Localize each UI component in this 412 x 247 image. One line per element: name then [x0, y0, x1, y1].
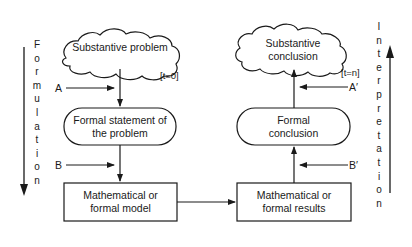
formal-conclusion-label: Formal conclusion [237, 114, 350, 140]
formal-statement-line1: Formal statement of [64, 114, 176, 127]
interpretation-label: I n t e r p r e t a t i o n [374, 20, 384, 210]
formulation-label: F o r m u l a t i o n [32, 38, 42, 188]
time-tag-end: [t=n] [341, 67, 360, 78]
formulation-arrowhead [20, 184, 28, 196]
math-model-label: Mathematical or formal model [64, 189, 177, 215]
input-a-prime-label: A′ [349, 81, 358, 94]
math-model-line1: Mathematical or [64, 189, 177, 202]
formal-conclusion-line1: Formal [237, 114, 350, 127]
formal-statement-label: Formal statement of the problem [64, 114, 176, 140]
time-tag-start: [t=0] [160, 70, 179, 81]
input-b-label: B [55, 159, 62, 172]
math-results-line1: Mathematical or [237, 189, 351, 202]
input-a-label: A [55, 82, 62, 95]
math-model-line2: formal model [64, 202, 177, 215]
interpretation-arrowhead [386, 45, 394, 58]
substantive-problem-label: Substantive problem [64, 41, 176, 54]
substantive-conclusion-line1: Substantive [240, 37, 346, 50]
input-b-prime-label: B′ [349, 159, 358, 172]
formal-conclusion-line2: conclusion [237, 127, 350, 140]
substantive-conclusion-label: Substantive conclusion [240, 37, 346, 63]
math-results-label: Mathematical or formal results [237, 189, 351, 215]
formal-statement-line2: the problem [64, 127, 176, 140]
math-results-line2: formal results [237, 202, 351, 215]
substantive-conclusion-line2: conclusion [240, 50, 346, 63]
